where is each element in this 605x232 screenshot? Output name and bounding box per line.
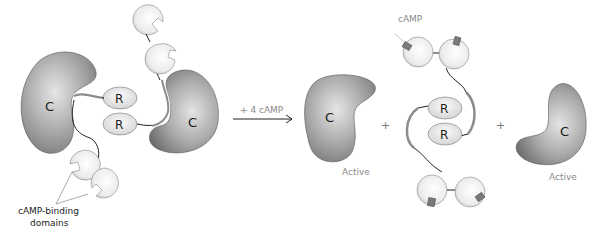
inactive-holoenzyme: C R R C <box>18 5 218 228</box>
regulatory-subunit-top: R <box>428 97 462 119</box>
regulatory-subunit-bottom: R <box>428 123 462 145</box>
regulatory-label: R <box>115 118 123 132</box>
regulatory-subunit-bottom: R <box>103 113 137 135</box>
camp-bound-domain <box>402 37 433 67</box>
reaction-arrow: + 4 cAMP <box>233 105 292 123</box>
camp-binding-domain <box>91 168 118 198</box>
camp-bound-domain <box>439 36 469 69</box>
active-label-2: Active <box>549 172 577 182</box>
camp-binding-domains-label-line2: domains <box>30 218 69 228</box>
catalytic-subunit-right: C <box>149 70 218 153</box>
active-label-1: Active <box>342 167 370 177</box>
regulatory-label: R <box>440 128 448 142</box>
catalytic-subunit-left: C <box>21 52 96 153</box>
catalytic-label-right: C <box>188 115 197 130</box>
regulatory-label: R <box>440 102 448 116</box>
annotation-line <box>56 172 72 204</box>
camp-binding-domain <box>145 44 176 74</box>
plus-sign-1: + <box>381 119 390 132</box>
annotation-line <box>56 194 88 204</box>
plus-sign-2: + <box>496 119 505 132</box>
pka-activation-diagram: C R R C <box>0 0 605 232</box>
camp-molecule <box>427 198 435 207</box>
active-catalytic-subunit-1: C Active <box>305 75 376 177</box>
active-catalytic-subunit-2: C Active <box>516 84 586 182</box>
camp-bound-domain <box>455 177 485 207</box>
catalytic-label: C <box>560 124 569 139</box>
catalytic-label-left: C <box>45 99 54 114</box>
regulatory-subunit-top: R <box>103 87 137 109</box>
camp-bound-domain <box>417 175 447 207</box>
regulatory-label: R <box>115 92 123 106</box>
arrow-label: + 4 cAMP <box>240 105 284 115</box>
camp-binding-domain <box>133 5 163 35</box>
catalytic-label: C <box>325 110 334 125</box>
camp-label: cAMP <box>398 14 423 24</box>
regulatory-dimer-camp-bound: cAMP R R <box>395 14 485 207</box>
camp-binding-domains-label: cAMP-binding <box>18 206 79 216</box>
